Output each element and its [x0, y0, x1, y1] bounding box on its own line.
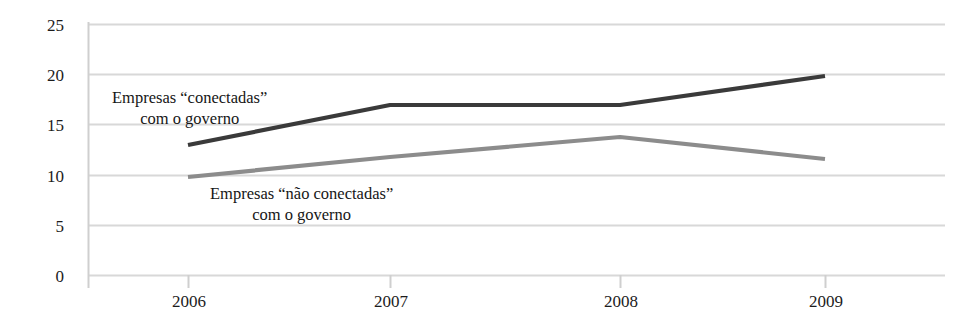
- y-axis-label-25: 25: [22, 17, 64, 34]
- series-not-connected: [188, 137, 825, 177]
- series-label-connected: Empresas “conectadas” com o governo: [112, 88, 267, 129]
- y-axis-label-15: 15: [22, 117, 64, 134]
- y-axis-label-20: 20: [22, 67, 64, 84]
- chart-canvas: [0, 0, 977, 336]
- y-axis-label-0: 0: [22, 268, 64, 285]
- series-label-not-connected-line1: Empresas “não conectadas”: [210, 184, 393, 205]
- axes: [89, 22, 826, 288]
- series-label-connected-line2: com o governo: [112, 109, 267, 130]
- gridlines: [88, 25, 945, 276]
- x-axis-label-2009: 2009: [781, 293, 871, 310]
- series-connected: [188, 76, 825, 145]
- x-axis-label-2006: 2006: [144, 293, 234, 310]
- y-axis-label-10: 10: [22, 168, 64, 185]
- x-axis-label-2008: 2008: [576, 293, 666, 310]
- series-label-not-connected: Empresas “não conectadas” com o governo: [210, 184, 393, 225]
- series-label-not-connected-line2: com o governo: [210, 205, 393, 226]
- line-chart: 25 20 15 10 5 0 2006 2007 2008 2009 Empr…: [0, 0, 977, 336]
- series-connected-line: [188, 76, 825, 145]
- x-axis-label-2007: 2007: [346, 293, 436, 310]
- series-label-connected-line1: Empresas “conectadas”: [112, 88, 267, 109]
- y-axis-label-5: 5: [22, 218, 64, 235]
- series-not-connected-line: [188, 137, 825, 177]
